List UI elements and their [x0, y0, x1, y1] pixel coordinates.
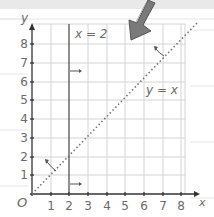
y-tick-7: 7 — [20, 57, 28, 69]
x-tick-2: 2 — [65, 200, 73, 212]
y-tick-2: 2 — [20, 151, 28, 163]
x-tick-6: 6 — [140, 200, 148, 212]
origin-label: O — [17, 197, 27, 209]
y-tick-5: 5 — [20, 94, 28, 106]
x-tick-1: 1 — [47, 200, 55, 212]
diagram: y x O x = 2 y = x 1 2 3 4 5 6 7 8 1 2 3 … — [0, 0, 214, 217]
top-band — [0, 0, 214, 9]
y-tick-1: 1 — [20, 169, 28, 181]
diagonal-line-label: y = x — [146, 84, 178, 96]
diagonal-line-y-equals-x — [32, 22, 198, 194]
grid-lines — [32, 24, 185, 194]
y-tick-8: 8 — [20, 38, 28, 50]
x-tick-3: 3 — [84, 200, 92, 212]
vertical-line-label: x = 2 — [75, 28, 107, 40]
x-axis-label: x — [199, 197, 206, 209]
x-tick-7: 7 — [159, 200, 167, 212]
y-tick-3: 3 — [20, 132, 28, 144]
x-tick-5: 5 — [121, 200, 129, 212]
y-tick-6: 6 — [20, 76, 28, 88]
y-axis-label: y — [21, 12, 28, 24]
x-tick-4: 4 — [103, 200, 111, 212]
y-tick-4: 4 — [20, 113, 28, 125]
direction-arrows — [45, 46, 164, 186]
x-tick-8: 8 — [177, 200, 185, 212]
